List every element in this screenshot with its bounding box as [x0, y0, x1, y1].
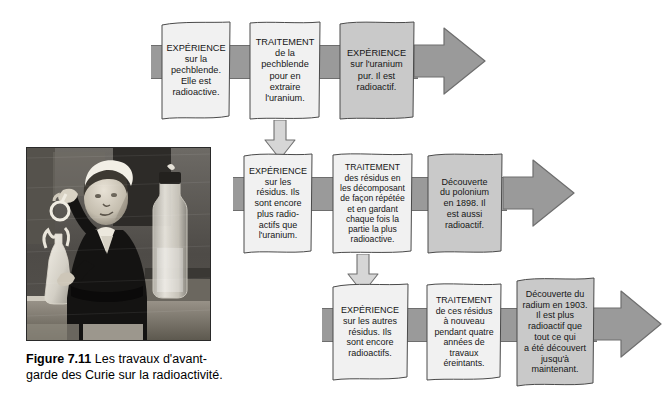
- box-line: de la: [251, 48, 319, 59]
- flow-box-r1-b1: EXPÉRIENCE sur la pechblende. Elle est r…: [159, 20, 233, 121]
- flow-box-r3-b3: Découverte du radium en 1903. Il est plu…: [514, 276, 596, 388]
- box-line: pur. Il est: [340, 71, 413, 82]
- box-line: jusqu'à: [517, 354, 593, 365]
- flow-box-r1-b3: EXPÉRIENCE sur l'uranium pur. Il est rad…: [337, 20, 416, 121]
- box-line: l'uranium.: [244, 230, 312, 241]
- marie-curie-photo: [26, 147, 211, 341]
- box-line: radium en 1903.: [517, 300, 593, 311]
- box-line: radioactive.: [334, 234, 411, 244]
- box-line: a été découvert: [517, 343, 593, 354]
- box-line: chaque fois la: [334, 214, 411, 224]
- box-line: années de: [428, 337, 500, 348]
- box-line: travaux: [428, 348, 500, 359]
- box-line: résidus. Ils: [333, 327, 407, 338]
- flow-box-r1-b2: TRAITEMENT de la pechblende pour en extr…: [248, 20, 322, 121]
- box-line: Il est plus: [517, 310, 593, 321]
- box-line: sur les: [244, 177, 312, 188]
- box-title: EXPÉRIENCE: [340, 48, 413, 59]
- box-line: de ces résidus: [428, 306, 500, 317]
- box-line: radioactif.: [428, 220, 501, 231]
- box-line: radioactifs.: [333, 348, 407, 359]
- figure-caption: Figure 7.11 Les travaux d'avant-garde de…: [26, 351, 231, 384]
- box-line: est aussi: [428, 209, 501, 220]
- box-line: à nouveau: [428, 316, 500, 327]
- box-line: et en gardant: [334, 204, 411, 214]
- flow-box-r2-b1: EXPÉRIENCE sur les résidus. Ils sont enc…: [241, 152, 315, 255]
- box-title: EXPÉRIENCE: [333, 305, 407, 316]
- box-title: EXPÉRIENCE: [162, 43, 230, 54]
- box-line: sur la: [162, 54, 230, 65]
- box-line: partie la plus: [334, 224, 411, 234]
- box-title: TRAITEMENT: [251, 37, 319, 48]
- box-title: EXPÉRIENCE: [244, 166, 312, 177]
- box-line: pour en: [251, 71, 319, 82]
- box-line: les décomposant: [334, 183, 411, 193]
- box-title: TRAITEMENT: [428, 295, 500, 306]
- box-line: maintenant.: [517, 364, 593, 375]
- box-line: de façon répétée: [334, 193, 411, 203]
- box-title: TRAITEMENT: [334, 162, 411, 172]
- box-line: l'uranium.: [251, 93, 319, 104]
- box-line: du polonium: [428, 187, 501, 198]
- box-line: des résidus en: [334, 173, 411, 183]
- box-line: Découverte: [428, 177, 501, 188]
- box-line: radioactif.: [340, 82, 413, 93]
- box-line: extraire: [251, 82, 319, 93]
- box-line: en 1898. Il: [428, 198, 501, 209]
- box-line: pechblende.: [162, 65, 230, 76]
- box-line: pechblende: [251, 59, 319, 70]
- box-line: radioactive.: [162, 87, 230, 98]
- flow-box-r3-b2: TRAITEMENT de ces résidus à nouveau pend…: [425, 282, 503, 382]
- figure-number: Figure 7.11: [26, 352, 91, 366]
- flow-box-r2-b2: TRAITEMENT des résidus en les décomposan…: [331, 152, 414, 255]
- flow-box-r3-b1: EXPÉRIENCE sur les autres résidus. Ils s…: [330, 282, 410, 382]
- box-line: tout ce qui: [517, 332, 593, 343]
- box-line: actifs que: [244, 220, 312, 231]
- box-line: sont encore: [333, 337, 407, 348]
- box-line: pendant quatre: [428, 327, 500, 338]
- box-line: Elle est: [162, 76, 230, 87]
- box-line: sur les autres: [333, 316, 407, 327]
- flow-box-r2-b3: Découverte du polonium en 1898. Il est a…: [425, 152, 504, 255]
- box-line: éreintants.: [428, 358, 500, 369]
- box-line: radioactif que: [517, 321, 593, 332]
- box-line: résidus. Ils: [244, 187, 312, 198]
- box-line: plus radio-: [244, 209, 312, 220]
- box-line: Découverte du: [517, 289, 593, 300]
- flow-row-1: EXPÉRIENCE sur la pechblende. Elle est r…: [0, 0, 664, 140]
- box-line: sont encore: [244, 198, 312, 209]
- box-line: sur l'uranium: [340, 59, 413, 70]
